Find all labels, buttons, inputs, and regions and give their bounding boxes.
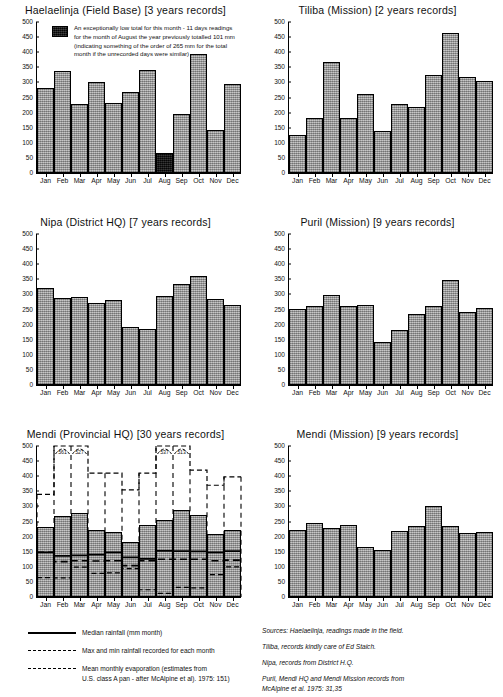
y-axis-tick-label: 0 [281,382,288,389]
y-axis-tick-label: 50 [278,155,288,162]
y-axis-tick-label: 0 [281,594,288,601]
bar [391,531,408,597]
x-axis-tick-mark [97,386,98,389]
bar [105,103,122,173]
y-axis-tick-label: 300 [274,291,288,298]
x-axis-tick-mark [80,386,81,389]
bar [425,306,442,385]
y-axis-tick-label: 450 [274,458,288,465]
x-axis-tick-mark [216,174,217,177]
bar [476,308,493,385]
bar [306,118,323,173]
y-axis-tick-label: 150 [22,124,36,131]
y-axis-tick-label: 300 [22,503,36,510]
legend-item: Median rainfall (mm month) [24,628,248,639]
y-axis-tick-label: 250 [274,94,288,101]
y-axis-tick-label: 500 [274,231,288,238]
y-axis-tick-label: 500 [274,19,288,26]
offscale-max-label: 561 [58,450,67,455]
x-axis-tick-mark [451,174,452,177]
x-axis-tick-mark [417,386,418,389]
y-axis-tick-label: 50 [26,367,36,374]
x-axis-tick-mark [332,598,333,601]
bar [139,70,156,173]
bar-series [289,234,493,385]
x-axis-tick-mark [182,174,183,177]
bar [224,84,241,173]
y-axis-tick-label: 100 [22,564,36,571]
y-axis-tick-label: 100 [22,140,36,147]
bar [340,306,357,385]
y-axis-tick-label: 150 [22,336,36,343]
x-axis-tick-mark [131,174,132,177]
legend: Median rainfall (mm month)Max and min ra… [24,628,248,690]
x-axis-tick-mark [332,386,333,389]
x-axis-tick-mark [434,386,435,389]
bar [224,305,241,385]
y-axis-tick-label: 150 [22,548,36,555]
y-axis-tick-label: 50 [278,367,288,374]
bar [442,33,459,173]
y-axis-tick-label: 150 [274,548,288,555]
plot-area: 050100150200250300350400450500JanFebMarA… [36,234,241,386]
bar [357,547,374,597]
bar [139,329,156,385]
x-axis-tick-mark [315,174,316,177]
bar [156,296,173,385]
bar [306,523,323,597]
x-axis-tick-mark [233,386,234,389]
x-axis-tick-mark [383,386,384,389]
y-axis-tick-label: 250 [22,94,36,101]
bar [173,114,190,173]
bar-series [37,234,241,385]
bar [190,54,207,173]
y-axis-tick-label: 400 [22,261,36,268]
bar [54,71,71,173]
y-axis-tick-label: 500 [22,231,36,238]
chart-panel-mendi-mission: Mendi (Mission) [9 years records] 050100… [252,428,503,634]
bar [37,288,54,385]
x-axis-tick-mark [165,598,166,601]
x-axis-tick-mark [434,598,435,601]
bar [54,298,71,385]
plot-area: 050100150200250300350400450500JanFebMarA… [288,446,493,598]
bar [156,153,173,173]
bar [323,528,340,597]
x-axis-tick-mark [451,386,452,389]
legend-key-dashed-fine-icon [28,650,76,651]
y-axis-tick-label: 400 [274,261,288,268]
bar [357,94,374,173]
bar [207,130,224,173]
x-axis-tick-mark [468,174,469,177]
chart-panel-nipa: Nipa (District HQ) [7 years records] 050… [0,216,251,422]
bar [306,306,323,385]
x-axis-tick-mark [315,598,316,601]
y-axis-tick-label: 0 [281,170,288,177]
bar [442,280,459,385]
y-axis-tick-label: 100 [274,352,288,359]
y-axis-tick-label: 350 [274,276,288,283]
bar [323,295,340,385]
y-axis-tick-label: 350 [22,64,36,71]
bar [408,107,425,173]
x-axis-tick-mark [97,174,98,177]
offscale-max-label: 513 [177,450,186,455]
bar [408,314,425,385]
bar [71,297,88,385]
bar [425,75,442,173]
chart-title: Puril (Mission) [9 years records] [252,216,503,228]
bar [442,526,459,597]
y-axis-tick-label: 400 [22,473,36,480]
chart-panel-mendi-hq: Mendi (Provincial HQ) [30 years records]… [0,428,251,634]
x-axis-tick-mark [400,386,401,389]
bar [408,526,425,597]
y-axis-tick-label: 450 [274,246,288,253]
offscale-max-label: 537 [160,450,169,455]
bar [374,131,391,173]
x-axis-tick-mark [417,174,418,177]
y-axis-tick-label: 300 [274,79,288,86]
y-axis-tick-label: 50 [26,579,36,586]
x-axis-tick-mark [485,174,486,177]
x-axis-tick-mark [366,174,367,177]
y-axis-tick-label: 100 [274,140,288,147]
